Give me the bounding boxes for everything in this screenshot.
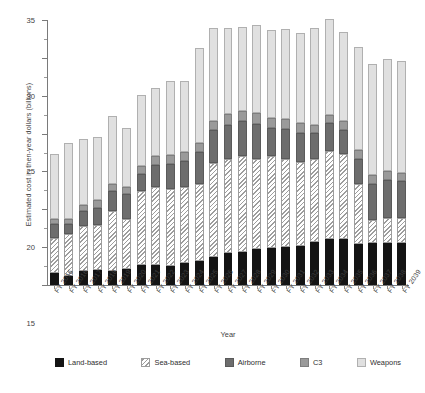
legend-item-c3[interactable]: C3 (300, 358, 322, 367)
bar-segment-weapons (238, 27, 247, 111)
legend-label: Airborne (238, 358, 266, 367)
bar-segment-c3 (296, 123, 305, 133)
bar-stack (281, 29, 290, 285)
bar-segment-airborne (383, 180, 392, 218)
bar-segment-airborne (397, 181, 406, 218)
bar-segment-weapons (108, 116, 117, 183)
legend-label: C3 (313, 358, 322, 367)
bar-segment-sea (252, 159, 261, 249)
bar-segment-weapons (209, 28, 218, 120)
y-axis-tick: 0 (42, 285, 47, 286)
bar-segment-airborne (79, 211, 88, 226)
bar-segment-airborne (209, 130, 218, 163)
y-axis-tick-label: 30 (27, 91, 35, 100)
bar-segment-airborne (64, 224, 73, 235)
bar-stack (339, 32, 348, 285)
bar-segment-c3 (93, 200, 102, 208)
legend-label: Sea-based (154, 358, 190, 367)
bar-segment-sea (238, 156, 247, 252)
bar-segment-airborne (325, 123, 334, 151)
bar-segment-airborne (281, 129, 290, 159)
bar-segment-sea (137, 191, 146, 264)
bar-stack (397, 61, 406, 285)
legend-item-sea[interactable]: Sea-based (141, 358, 190, 367)
bar-stack (310, 28, 319, 285)
bar-segment-sea (180, 187, 189, 263)
bar-segment-weapons (397, 61, 406, 173)
bar-segment-weapons (195, 48, 204, 143)
bar-segment-c3 (397, 173, 406, 181)
legend-item-airborne[interactable]: Airborne (225, 358, 266, 367)
bar-segment-weapons (137, 95, 146, 166)
stacked-bar-chart: Estimated cost in then-year dollars (bil… (0, 0, 425, 393)
bar-segment-sea (368, 220, 377, 243)
bar-segment-sea (310, 159, 319, 242)
legend-item-land[interactable]: Land-based (55, 358, 107, 367)
legend-swatch-weapons (357, 358, 366, 367)
bar-segment-airborne (252, 124, 261, 159)
y-axis-title: Estimated cost in then-year dollars (bil… (24, 35, 33, 275)
bar-segment-sea (281, 159, 290, 247)
bar-segment-sea (209, 163, 218, 257)
legend-item-weapons[interactable]: Weapons (357, 358, 401, 367)
bar-segment-airborne (267, 128, 276, 157)
bar-segment-weapons (296, 33, 305, 123)
x-axis-title: Year (47, 330, 409, 339)
bar-segment-weapons (354, 47, 363, 150)
bar-segment-c3 (224, 114, 233, 125)
legend-swatch-c3 (300, 358, 309, 367)
bar-segment-weapons (224, 28, 233, 114)
legend-swatch-land (55, 358, 64, 367)
bar-segment-sea (108, 211, 117, 271)
bar-segment-sea (339, 154, 348, 239)
bar-segment-c3 (151, 156, 160, 164)
bar-stack (296, 33, 305, 285)
bar-segment-airborne (368, 184, 377, 220)
bar-segment-weapons (79, 139, 88, 205)
bar-stack (151, 88, 160, 285)
bar-segment-c3 (180, 152, 189, 161)
bar-segment-sea (93, 225, 102, 270)
bar-segment-airborne (354, 159, 363, 184)
bar-segment-airborne (93, 208, 102, 225)
bar-stack (180, 81, 189, 285)
bar-segment-sea (325, 151, 334, 239)
bar-segment-weapons (50, 154, 59, 219)
bar-segment-sea (50, 238, 59, 273)
bar-stack (267, 30, 276, 285)
bar-stack (224, 28, 233, 285)
chart-legend: Land-basedSea-basedAirborneC3Weapons (47, 358, 409, 367)
bar-stack (368, 64, 377, 285)
bar-segment-weapons (281, 29, 290, 119)
bar-segment-airborne (122, 194, 131, 219)
bar-segment-c3 (195, 143, 204, 151)
bar-stack (209, 28, 218, 285)
bar-segment-airborne (195, 152, 204, 184)
bar-segment-weapons (122, 128, 131, 188)
bar-segment-airborne (180, 161, 189, 187)
bar-segment-c3 (339, 121, 348, 130)
bar-segment-weapons (93, 137, 102, 201)
bar-series-container (47, 20, 409, 285)
bar-stack (122, 128, 131, 285)
bar-stack (354, 47, 363, 285)
bar-segment-sea (79, 226, 88, 271)
bar-stack (108, 116, 117, 285)
bar-segment-airborne (296, 133, 305, 163)
legend-swatch-airborne (225, 358, 234, 367)
bar-segment-c3 (368, 175, 377, 183)
bar-segment-airborne (339, 130, 348, 154)
y-axis-tick-label: 35 (27, 16, 35, 25)
bar-segment-weapons (325, 19, 334, 114)
bar-segment-sea (296, 162, 305, 246)
bar-segment-weapons (310, 28, 319, 124)
bar-stack (137, 95, 146, 285)
bar-segment-sea (267, 156, 276, 248)
bar-segment-sea (354, 184, 363, 245)
bar-stack (166, 81, 175, 285)
legend-label: Land-based (68, 358, 107, 367)
bar-stack (64, 143, 73, 285)
bar-segment-airborne (137, 174, 146, 191)
bar-segment-c3 (137, 166, 146, 174)
legend-swatch-sea (141, 358, 150, 367)
